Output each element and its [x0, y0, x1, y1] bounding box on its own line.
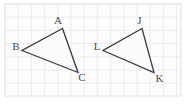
vertex-label-b: B [12, 40, 19, 52]
vertex-label-l: L [94, 40, 101, 52]
vertex-label-k: K [156, 72, 164, 84]
vertex-label-a: A [54, 14, 62, 26]
geometry-diagram: ABCJLK [0, 0, 193, 104]
vertex-label-j: J [137, 14, 142, 26]
figure-canvas: ABCJLK [0, 0, 193, 104]
vertex-label-c: C [78, 71, 85, 83]
